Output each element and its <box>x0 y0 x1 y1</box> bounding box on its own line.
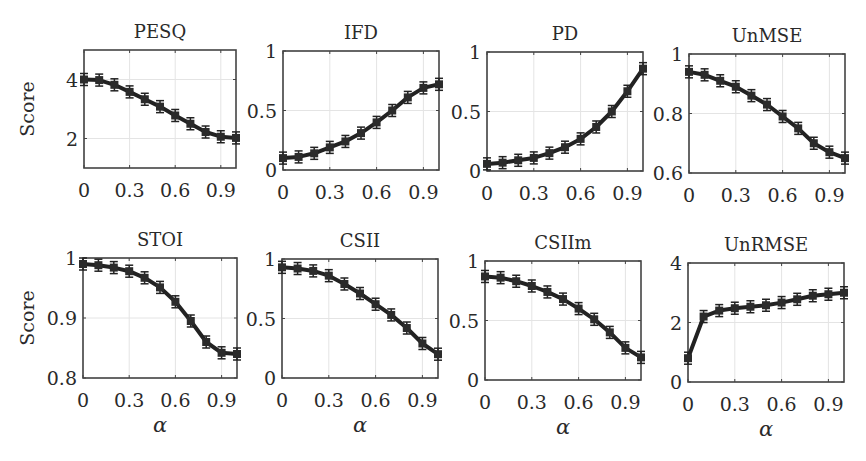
data-point-marker <box>608 108 616 116</box>
data-series <box>684 287 848 364</box>
y-tick-label: 0.8 <box>47 367 77 389</box>
data-point-marker <box>794 124 802 132</box>
data-point-marker <box>575 305 583 313</box>
data-series <box>79 258 241 360</box>
data-point-marker <box>156 283 164 291</box>
data-point-marker <box>746 303 754 311</box>
data-point-marker <box>530 154 538 162</box>
data-point-marker <box>279 154 287 162</box>
data-point-marker <box>793 295 801 303</box>
data-point-marker <box>80 76 88 84</box>
x-tick-label: 0.3 <box>720 393 750 415</box>
data-point-marker <box>528 282 536 290</box>
data-point-marker <box>778 299 786 307</box>
y-tick-label: 1 <box>265 40 277 62</box>
data-series <box>481 270 645 363</box>
x-tick-label: 0.6 <box>766 393 796 415</box>
x-tick-label: 0 <box>479 391 491 413</box>
data-point-marker <box>639 65 647 73</box>
data-point-marker <box>202 338 210 346</box>
y-tick-label: 0.5 <box>449 310 479 332</box>
series-line <box>485 277 641 358</box>
x-tick-label: 0.9 <box>612 182 642 204</box>
data-series <box>279 78 443 164</box>
data-point-marker <box>732 83 740 91</box>
series-line <box>689 72 845 158</box>
y-tick-label: 0 <box>469 160 481 182</box>
data-point-marker <box>357 129 365 137</box>
subplot-ifd: 00.30.60.900.51IFD <box>247 22 443 203</box>
series-line <box>83 264 237 354</box>
x-tick-label: 0.6 <box>360 389 390 411</box>
x-tick-label: 0.9 <box>206 389 236 411</box>
data-point-marker <box>481 272 489 280</box>
y-axis-label: Score <box>16 81 38 136</box>
data-series <box>278 261 442 360</box>
data-point-marker <box>545 149 553 157</box>
data-point-marker <box>187 317 195 325</box>
y-tick-label: 1 <box>65 247 77 269</box>
x-tick-label: 0 <box>78 179 90 201</box>
data-point-marker <box>340 280 348 288</box>
data-point-marker <box>623 87 631 95</box>
subplot-pesq: 00.30.60.924PESQScore <box>16 21 240 201</box>
data-point-marker <box>403 324 411 332</box>
data-point-marker <box>387 311 395 319</box>
data-series <box>483 63 647 170</box>
data-point-marker <box>94 261 102 269</box>
x-tick-label: 0.9 <box>814 184 844 206</box>
data-point-marker <box>763 101 771 109</box>
data-point-marker <box>156 103 164 111</box>
data-point-marker <box>341 137 349 145</box>
y-tick-label: 0.6 <box>653 162 683 184</box>
y-tick-label: 0.5 <box>451 101 481 123</box>
chart-grid: 00.30.60.924PESQScore00.30.60.900.51IFD0… <box>0 0 866 461</box>
y-tick-label: 1 <box>469 41 481 63</box>
y-tick-label: 4 <box>670 252 682 274</box>
series-line <box>282 267 438 354</box>
data-point-marker <box>684 354 692 362</box>
data-point-marker <box>278 263 286 271</box>
data-point-marker <box>810 139 818 147</box>
y-tick-label: 0.5 <box>246 308 276 330</box>
data-point-marker <box>218 349 226 357</box>
x-tick-label: 0.9 <box>408 181 438 203</box>
data-point-marker <box>841 154 849 162</box>
y-tick-label: 0.8 <box>653 103 683 125</box>
y-tick-label: 0 <box>670 371 682 393</box>
data-point-marker <box>309 267 317 275</box>
data-point-marker <box>716 77 724 85</box>
y-tick-label: 1 <box>671 43 683 65</box>
data-point-marker <box>606 328 614 336</box>
data-point-marker <box>483 160 491 168</box>
data-point-marker <box>110 81 118 89</box>
data-point-marker <box>141 95 149 103</box>
data-point-marker <box>294 265 302 273</box>
data-point-marker <box>419 84 427 92</box>
data-point-marker <box>326 143 334 151</box>
subplot-title: PD <box>552 23 579 44</box>
y-tick-label: 4 <box>66 69 78 91</box>
x-tick-label: 0.3 <box>114 179 144 201</box>
x-tick-label: 0 <box>276 389 288 411</box>
x-tick-label: 0.9 <box>610 391 640 413</box>
x-tick-label: 0.3 <box>114 389 144 411</box>
data-point-marker <box>295 153 303 161</box>
x-tick-label: 0.3 <box>315 181 345 203</box>
data-point-marker <box>217 133 225 141</box>
x-tick-label: 0.9 <box>813 393 843 415</box>
data-point-marker <box>434 350 442 358</box>
x-axis-label: α <box>759 417 773 441</box>
data-series <box>685 66 849 164</box>
subplot-title: CSIIm <box>534 232 591 253</box>
data-series <box>80 74 240 144</box>
data-point-marker <box>824 290 832 298</box>
x-tick-label: 0.6 <box>563 391 593 413</box>
data-point-marker <box>701 71 709 79</box>
x-axis-label: α <box>353 413 367 437</box>
data-point-marker <box>356 290 364 298</box>
data-point-marker <box>561 143 569 151</box>
y-tick-label: 2 <box>66 128 78 150</box>
data-point-marker <box>126 88 134 96</box>
subplot-csiim: 00.30.60.900.51CSIImα <box>449 232 645 439</box>
